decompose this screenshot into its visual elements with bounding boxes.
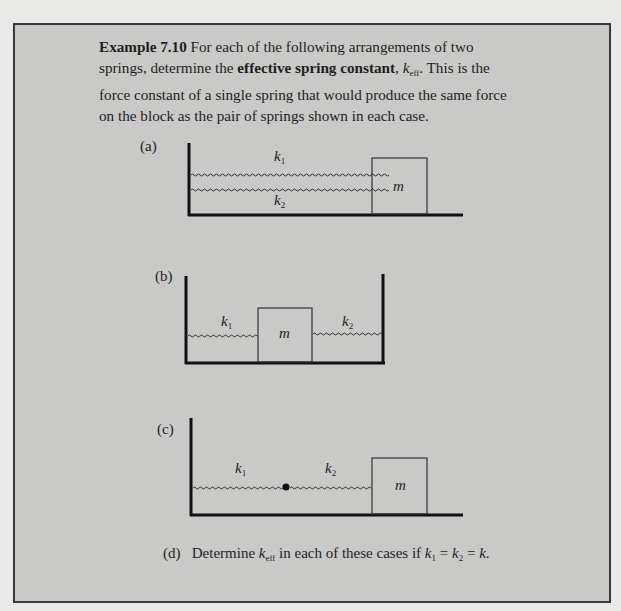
spring-k1-a [191,174,389,176]
mass-b: m [279,325,290,342]
diagram-a [188,143,463,216]
part-d-question: (d) Determine keff in each of these case… [163,545,490,563]
k1-label-c: k1 [235,460,246,478]
mass-a: m [393,178,404,195]
part-c-label: (c) [157,421,174,438]
mass-c: m [395,477,406,494]
k2-label-c: k2 [325,460,336,478]
part-b-label: (b) [155,268,173,285]
diagram-b [185,274,385,364]
k1-label-a: k1 [274,148,285,166]
spring-k2-a [191,189,389,191]
k1-label-b: k1 [221,313,232,331]
part-a-label: (a) [140,138,157,155]
k2-label-a: k2 [274,192,285,210]
k2-label-b: k2 [342,313,353,331]
spring-diagrams [0,0,621,611]
